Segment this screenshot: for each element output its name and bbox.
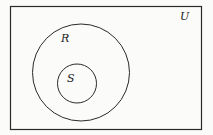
venn-diagram: U R S: [0, 0, 213, 135]
universe-rectangle: [11, 7, 202, 130]
set-s-circle: [58, 64, 97, 103]
set-r-label: R: [60, 32, 69, 45]
set-s-label: S: [67, 72, 75, 85]
universe-label: U: [180, 10, 190, 23]
set-r-circle: [33, 24, 130, 121]
